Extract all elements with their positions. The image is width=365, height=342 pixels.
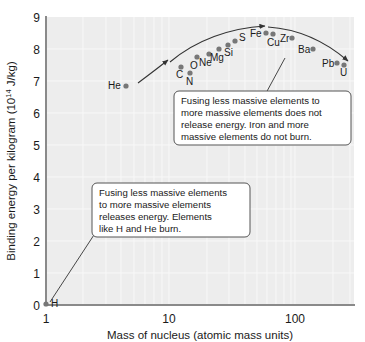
- point-label-He: He: [108, 80, 121, 91]
- y-axis-tick-labels: 9 8 7 6 5 4 3 2 1 0: [33, 11, 40, 313]
- chart-svg: 9 8 7 6 5 4 3 2 1 0 1 10 100 Mass of nuc…: [0, 0, 365, 342]
- point-label-Zr: Zr: [280, 33, 290, 44]
- point-label-N: N: [186, 76, 193, 87]
- point-label-Pb: Pb: [322, 58, 335, 69]
- y-tick-7: 7: [33, 75, 40, 89]
- lower-callout-line-2: to more massive elements: [99, 199, 211, 210]
- x-tick-100: 100: [285, 312, 305, 326]
- svg-text:Binding energy per kilogram (1: Binding energy per kilogram (1014 J/kg): [4, 61, 17, 261]
- data-point-N: [187, 70, 192, 75]
- y-axis-title: Binding energy per kilogram (1014 J/kg): [4, 61, 17, 261]
- data-point-Cu: [270, 31, 275, 36]
- x-axis-title: Mass of nucleus (atomic mass units): [107, 329, 293, 341]
- data-point-Mg: [216, 46, 221, 51]
- y-tick-6: 6: [33, 107, 40, 121]
- data-point-H: [43, 301, 48, 306]
- data-point-Pb: [334, 60, 339, 65]
- x-tick-1: 1: [43, 312, 50, 326]
- lower-callout-line-3: releases energy. Elements: [99, 211, 212, 222]
- y-tick-5: 5: [33, 139, 40, 153]
- y-tick-4: 4: [33, 171, 40, 185]
- point-label-U: U: [340, 67, 347, 78]
- data-point-S: [232, 38, 237, 43]
- x-tick-10: 10: [162, 312, 176, 326]
- lower-callout: Fusing less massive elements to more mas…: [92, 183, 250, 237]
- y-axis-title-exponent: 14: [4, 89, 13, 97]
- y-axis-title-tail: J/kg): [5, 61, 17, 89]
- upper-callout: Fusing less massive elements to more mas…: [174, 91, 351, 145]
- upper-callout-line-2: more massive elements does not: [181, 107, 322, 118]
- data-point-Fe: [263, 30, 268, 35]
- point-label-C: C: [176, 69, 183, 80]
- y-tick-0: 0: [33, 299, 40, 313]
- y-tick-8: 8: [33, 43, 40, 57]
- x-axis-tick-labels: 1 10 100: [43, 312, 306, 326]
- lower-callout-line-1: Fusing less massive elements: [99, 187, 227, 198]
- data-point-Zr: [289, 35, 294, 40]
- point-label-H: H: [51, 298, 58, 309]
- point-label-Mg: Mg: [210, 52, 224, 63]
- point-label-O: O: [190, 60, 198, 71]
- binding-energy-chart: 9 8 7 6 5 4 3 2 1 0 1 10 100 Mass of nuc…: [0, 0, 365, 342]
- point-label-Ba: Ba: [298, 44, 311, 55]
- point-label-Fe: Fe: [250, 28, 262, 39]
- upper-callout-line-4: massive elements do not burn.: [181, 131, 312, 142]
- point-label-Cu: Cu: [267, 37, 280, 48]
- y-axis-title-base: Binding energy per kilogram (10: [5, 98, 17, 261]
- point-label-Si: Si: [224, 47, 233, 58]
- lower-callout-line-4: like H and He burn.: [99, 223, 181, 234]
- data-point-Ba: [310, 46, 315, 51]
- point-label-S: S: [239, 32, 246, 43]
- upper-callout-line-3: release energy. Iron and more: [181, 119, 309, 130]
- upper-callout-line-1: Fusing less massive elements to: [181, 95, 320, 106]
- y-tick-9: 9: [33, 11, 40, 25]
- y-tick-3: 3: [33, 203, 40, 217]
- data-point-He: [123, 83, 128, 88]
- y-tick-2: 2: [33, 235, 40, 249]
- y-tick-1: 1: [33, 267, 40, 281]
